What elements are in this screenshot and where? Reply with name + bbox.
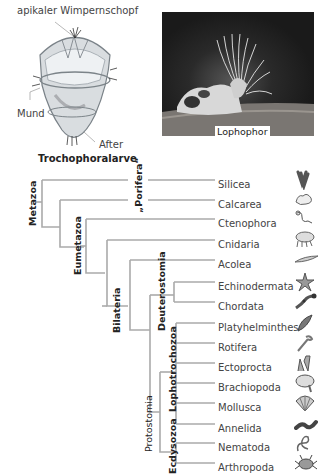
taxon-row: Calcarea	[218, 193, 262, 212]
taxon-row: Ectoprocta	[218, 356, 272, 375]
taxon-row: Cnidaria	[218, 233, 260, 252]
taxon-row: Annelida	[218, 417, 262, 436]
group-label-ecdysozoa: Ecdysozoa	[167, 418, 178, 474]
taxon-row: Acolea	[218, 253, 251, 272]
taxon-row: Mollusca	[218, 396, 261, 415]
taxon-label: Rotifera	[218, 342, 257, 353]
branch-eumetazoa	[86, 219, 215, 273]
branch-metazoa	[42, 180, 60, 227]
taxon-label: Mollusca	[218, 402, 261, 413]
taxon-row: Chordata	[218, 295, 264, 314]
taxon-label: Acolea	[218, 259, 251, 270]
group-label-deuterostomia: Deuterostomia	[156, 251, 167, 331]
taxon-label: Ctenophora	[218, 218, 277, 229]
taxon-row: Silicea	[218, 173, 250, 192]
group-label-lophotrochozoa: Lophotrochozoa	[167, 326, 178, 412]
taxon-row: Echinodermata	[218, 275, 294, 294]
taxon-row: Rotifera	[218, 336, 257, 355]
taxon-label: Ectoprocta	[218, 362, 272, 373]
taxon-label: Brachiopoda	[218, 382, 281, 393]
taxon-row: Arthropoda	[218, 456, 274, 474]
flatworm-acoel-icon	[294, 250, 318, 274]
taxon-row: Ctenophora	[218, 212, 277, 231]
taxon-label: Cnidaria	[218, 239, 260, 250]
taxon-row: Nematoda	[218, 436, 270, 455]
group-label-bilateria: Bilateria	[111, 287, 122, 333]
phylogenetic-tree	[0, 0, 326, 474]
taxon-label: Platyhelminthes	[218, 322, 299, 333]
group-label-porifera: „Porifera“	[133, 157, 144, 213]
taxon-label: Calcarea	[218, 199, 262, 210]
taxon-label: Silicea	[218, 179, 250, 190]
taxon-row: Brachiopoda	[218, 376, 281, 395]
taxon-label: Arthropoda	[218, 462, 274, 473]
crab-icon	[294, 453, 318, 474]
branch-ecdysozoa	[176, 443, 215, 463]
branch-lophotrochozoa	[176, 323, 215, 424]
branch-deuterostomia	[174, 282, 215, 302]
taxon-label: Nematoda	[218, 442, 270, 453]
group-label-metazoa: Metazoa	[27, 181, 38, 226]
group-label-eumetazoa: Eumetazoa	[72, 216, 83, 275]
taxon-label: Echinodermata	[218, 281, 294, 292]
taxon-label: Chordata	[218, 301, 264, 312]
group-label-protostomia: Protostomia	[143, 395, 154, 452]
taxon-label: Annelida	[218, 423, 262, 434]
taxon-row: Platyhelminthes	[218, 316, 299, 335]
